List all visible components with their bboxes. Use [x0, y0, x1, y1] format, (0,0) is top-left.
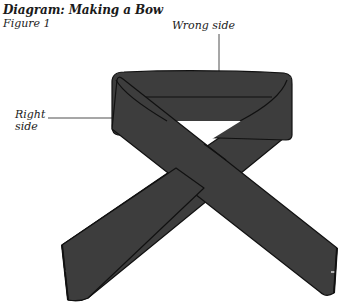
bow-ribbon-illustration — [0, 0, 340, 307]
ribbon-strand-back-lower — [62, 168, 204, 301]
